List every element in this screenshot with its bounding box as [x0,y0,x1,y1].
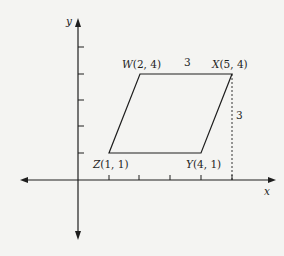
x-axis [20,175,276,183]
height-length-label: 3 [236,109,243,121]
top-side-length-label: 3 [184,56,191,68]
vertex-label-z: Z(1, 1) [92,158,129,170]
vertex-label-w: W(2, 4) [122,58,161,70]
coordinate-diagram: y x W(2, 4) X(5, 4) Y(4, 1) Z(1, 1) 3 3 [0,0,284,256]
y-axis-up-arrow-icon [75,18,81,27]
y-axis-label: y [65,15,73,27]
x-axis-label: x [264,185,270,197]
vertex-label-y: Y(4, 1) [186,158,221,170]
x-axis-left-arrow-icon [20,177,28,183]
vertex-label-x: X(5, 4) [211,58,248,70]
y-axis [75,18,84,240]
x-axis-right-arrow-icon [268,177,276,183]
y-ticks [78,47,84,153]
y-axis-down-arrow-icon [75,231,81,240]
parallelogram-wxyz [109,74,232,153]
x-ticks [109,175,232,180]
